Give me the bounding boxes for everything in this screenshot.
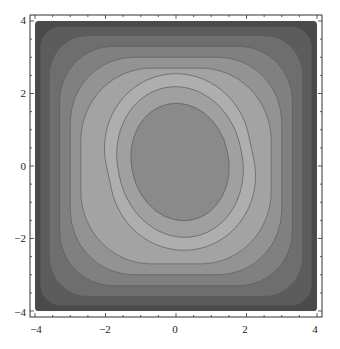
- x-tick-label: 0: [172, 323, 178, 335]
- x-tick-label: −2: [99, 323, 111, 335]
- plot-area: [35, 21, 317, 311]
- y-tick-label: −4: [14, 306, 26, 318]
- contour-plot: −4 −2 0 2 4 −4 −2 0 2 4: [0, 0, 340, 349]
- x-tick-label: 2: [242, 323, 248, 335]
- x-tick-label: −4: [30, 323, 42, 335]
- y-tick-label: 2: [21, 87, 27, 99]
- x-axis-tick-labels: −4 −2 0 2 4: [30, 323, 318, 335]
- y-tick-label: 0: [21, 160, 27, 172]
- x-tick-label: 4: [312, 323, 318, 335]
- y-tick-label: 4: [21, 14, 27, 26]
- y-axis-tick-labels: −4 −2 0 2 4: [14, 14, 26, 318]
- y-tick-label: −2: [14, 232, 26, 244]
